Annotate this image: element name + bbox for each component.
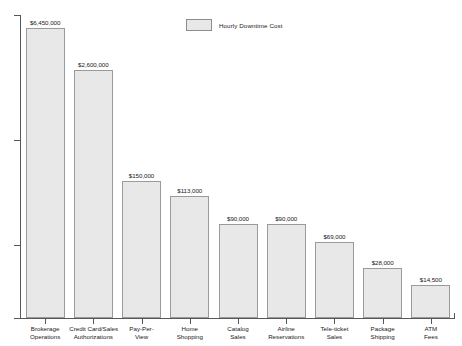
category-label: ATMFees: [407, 325, 455, 342]
category-label-line: Brokerage: [21, 325, 69, 333]
y-axis-tick: [14, 15, 21, 16]
bar-group: $28,000: [363, 0, 402, 318]
bar-group: $90,000: [267, 0, 306, 318]
category-label-line: Sales: [310, 333, 358, 341]
category-label: HomeShopping: [166, 325, 214, 342]
category-label-line: Operations: [21, 333, 69, 341]
bar-group: $90,000: [219, 0, 258, 318]
x-axis-tick: [142, 318, 143, 324]
category-label: Credit Card/SalesAuthorizations: [69, 325, 117, 342]
category-label: PackageShipping: [359, 325, 407, 342]
bar-group: $150,000: [122, 0, 161, 318]
category-label: CatalogSales: [214, 325, 262, 342]
category-label-line: Reservations: [262, 333, 310, 341]
category-label: BrokerageOperations: [21, 325, 69, 342]
downtime-cost-bar-chart: Hourly Downtime Cost $6,450,000$2,600,00…: [0, 0, 462, 346]
bar[interactable]: [74, 70, 113, 318]
bar-group: $69,000: [315, 0, 354, 318]
category-label-line: Catalog: [214, 325, 262, 333]
y-axis-tick: [14, 245, 21, 246]
bar-value-label: $90,000: [219, 215, 258, 222]
x-axis-tick: [286, 318, 287, 324]
bar-value-label: $2,600,000: [74, 61, 113, 68]
bar-group: $14,500: [411, 0, 450, 318]
bar[interactable]: [26, 28, 65, 318]
bar[interactable]: [315, 242, 354, 318]
x-axis-tick: [431, 318, 432, 324]
plot-area: $6,450,000$2,600,000$150,000$113,000$90,…: [21, 0, 455, 318]
bar[interactable]: [411, 285, 450, 318]
category-label-line: Fees: [407, 333, 455, 341]
category-label-line: Pay-Per-: [117, 325, 165, 333]
bar-value-label: $6,450,000: [26, 19, 65, 26]
category-label-line: Airline: [262, 325, 310, 333]
bar[interactable]: [170, 196, 209, 318]
category-label-line: Tele-ticket: [310, 325, 358, 333]
x-axis-tick: [334, 318, 335, 324]
x-axis-tick: [45, 318, 46, 324]
category-label-line: Authorizations: [69, 333, 117, 341]
category-label-line: Shipping: [359, 333, 407, 341]
category-label-line: Sales: [214, 333, 262, 341]
bar[interactable]: [122, 181, 161, 318]
x-axis-tick: [190, 318, 191, 324]
bar-value-label: $113,000: [170, 187, 209, 194]
bar-group: $113,000: [170, 0, 209, 318]
bar-value-label: $14,500: [411, 276, 450, 283]
bar-group: $2,600,000: [74, 0, 113, 318]
category-label: Tele-ticketSales: [310, 325, 358, 342]
category-label-line: View: [117, 333, 165, 341]
x-axis-tick: [238, 318, 239, 324]
bar[interactable]: [267, 224, 306, 318]
x-axis-tick: [383, 318, 384, 324]
x-axis-line: [14, 318, 455, 319]
category-label-line: Shopping: [166, 333, 214, 341]
bar[interactable]: [363, 268, 402, 318]
category-label: Pay-Per-View: [117, 325, 165, 342]
category-label-line: Home: [166, 325, 214, 333]
x-axis-tick: [93, 318, 94, 324]
category-label-line: Package: [359, 325, 407, 333]
bar[interactable]: [219, 224, 258, 318]
bar-value-label: $69,000: [315, 233, 354, 240]
category-label-line: ATM: [407, 325, 455, 333]
bar-value-label: $28,000: [363, 259, 402, 266]
bar-group: $6,450,000: [26, 0, 65, 318]
y-axis-tick: [14, 140, 21, 141]
x-axis-end-tick: [454, 313, 455, 319]
category-label-line: Credit Card/Sales: [69, 325, 117, 333]
bar-value-label: $150,000: [122, 172, 161, 179]
category-label: AirlineReservations: [262, 325, 310, 342]
bar-value-label: $90,000: [267, 215, 306, 222]
